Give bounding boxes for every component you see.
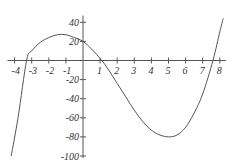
x-tick-label: 1 (97, 65, 102, 76)
x-tick-label: -2 (46, 65, 54, 76)
axes (7, 16, 226, 158)
x-tick-label: 8 (217, 65, 222, 76)
ticks (15, 22, 220, 156)
x-tick-label: 7 (200, 65, 206, 76)
y-tick-label: -40 (66, 93, 79, 104)
x-tick-label: 6 (183, 65, 188, 76)
y-tick-label: -80 (66, 131, 79, 142)
y-tick-label: -60 (66, 112, 79, 123)
x-tick-label: 4 (148, 65, 153, 76)
x-tick-label: 3 (130, 65, 136, 76)
y-tick-label: -20 (66, 74, 79, 85)
y-tick-label: -100 (61, 151, 79, 162)
x-tick-label: 5 (166, 65, 171, 76)
x-tick-label: -4 (12, 65, 20, 76)
y-tick-label: 40 (69, 17, 79, 28)
x-tick-label: -3 (29, 65, 37, 76)
chart: -4-3-2-1123456784020-20-40-60-80-100 (0, 0, 226, 163)
x-tick-label: 2 (114, 65, 119, 76)
tick-labels: -4-3-2-1123456784020-20-40-60-80-100 (12, 17, 222, 162)
series-line (11, 18, 223, 156)
